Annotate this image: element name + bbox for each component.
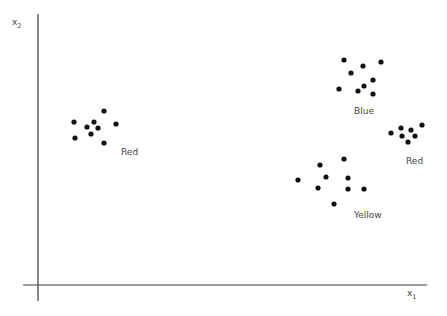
data-point bbox=[388, 130, 393, 135]
data-point bbox=[101, 140, 106, 145]
data-point bbox=[101, 108, 106, 113]
data-point bbox=[323, 174, 328, 179]
cluster-yellow: Yellow bbox=[295, 156, 381, 220]
x-axis-label: x1 bbox=[407, 288, 416, 301]
data-point bbox=[370, 91, 375, 96]
cluster-label: Red bbox=[406, 156, 423, 166]
cluster-blue: Blue bbox=[336, 57, 383, 116]
data-point bbox=[361, 83, 366, 88]
data-point bbox=[88, 131, 93, 136]
data-point bbox=[345, 186, 350, 191]
data-point bbox=[341, 156, 346, 161]
data-point bbox=[71, 119, 76, 124]
data-point bbox=[95, 125, 100, 130]
data-point bbox=[336, 86, 341, 91]
data-point bbox=[419, 122, 424, 127]
cluster-label: Yellow bbox=[353, 210, 382, 220]
data-point bbox=[405, 139, 410, 144]
data-point bbox=[113, 121, 118, 126]
y-axis-label: x2 bbox=[12, 17, 21, 30]
data-point bbox=[341, 57, 346, 62]
data-point bbox=[360, 63, 365, 68]
data-point bbox=[355, 88, 360, 93]
clusters: RedBlueRedYellow bbox=[71, 57, 424, 220]
scatter-diagram: x2 x1 RedBlueRedYellow bbox=[0, 0, 447, 316]
data-point bbox=[370, 77, 375, 82]
cluster-label: Blue bbox=[354, 106, 374, 116]
data-point bbox=[331, 201, 336, 206]
data-point bbox=[315, 185, 320, 190]
data-point bbox=[398, 125, 403, 130]
data-point bbox=[408, 127, 413, 132]
data-point bbox=[317, 162, 322, 167]
data-point bbox=[72, 135, 77, 140]
data-point bbox=[361, 186, 366, 191]
data-point bbox=[399, 133, 404, 138]
data-point bbox=[378, 59, 383, 64]
data-point bbox=[345, 175, 350, 180]
cluster-red: Red bbox=[388, 122, 424, 166]
data-point bbox=[412, 133, 417, 138]
cluster-label: Red bbox=[121, 147, 138, 157]
data-point bbox=[295, 177, 300, 182]
data-point bbox=[348, 70, 353, 75]
data-point bbox=[91, 119, 96, 124]
data-point bbox=[84, 124, 89, 129]
cluster-red: Red bbox=[71, 108, 138, 157]
